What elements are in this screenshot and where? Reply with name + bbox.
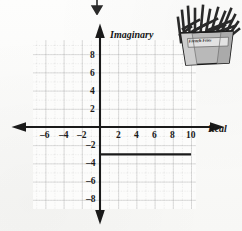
french-fries-icon [173, 2, 241, 68]
xtick-label: 2 [116, 131, 121, 141]
ytick-label: 4 [90, 87, 95, 97]
ytick-label: –8 [86, 195, 96, 205]
xtick-label: 10 [186, 131, 196, 141]
real-axis-title: Real [208, 124, 227, 134]
figure-canvas: 2 4 6 8 10 –6 –4 –2 8 6 4 2 –2 –4 –6 –8 … [0, 0, 242, 231]
xtick-label: 4 [134, 131, 139, 141]
xtick-label: 8 [170, 131, 175, 141]
xtick-label: –4 [59, 131, 69, 141]
ytick-label: 2 [90, 105, 95, 115]
ytick-label: –6 [86, 177, 96, 187]
ytick-label: –2 [86, 141, 96, 151]
ytick-label: 8 [90, 51, 95, 61]
ytick-label: 6 [90, 69, 95, 79]
grid [33, 40, 196, 209]
imaginary-axis-title: Imaginary [110, 30, 153, 40]
xtick-label: –6 [40, 131, 50, 141]
fries-carton [181, 31, 233, 65]
ytick-label: –4 [86, 159, 96, 169]
xtick-label: 6 [152, 131, 157, 141]
